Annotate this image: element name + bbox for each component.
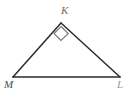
- vertex-label-l: L: [117, 79, 123, 90]
- vertex-label-m: M: [4, 79, 13, 90]
- geometry-figure: K M L: [0, 0, 127, 95]
- vertex-label-k: K: [61, 5, 68, 16]
